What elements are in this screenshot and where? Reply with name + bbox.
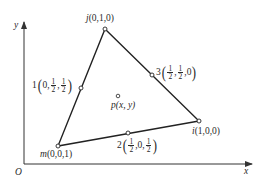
denominator: 2 [146, 146, 152, 154]
vertex-m-name: m [40, 149, 47, 159]
vertex-m-label: m(0,0,1) [40, 150, 72, 160]
midpoint-1-label: 1 ( 0, 12, 12 ) [32, 77, 73, 94]
midpoint-2-marker [126, 131, 130, 135]
vertex-i-marker [197, 119, 201, 123]
midpoint-1-y-fraction: 12 [51, 78, 57, 94]
comma: , [142, 141, 144, 151]
origin-label: O [15, 168, 22, 178]
y-axis-label: y [14, 21, 18, 31]
denominator: 2 [61, 86, 67, 94]
left-paren: ( [161, 64, 165, 81]
denominator: 2 [51, 86, 57, 94]
point-p-marker [116, 94, 120, 98]
vertex-i-label: i(1,0,0) [192, 127, 220, 137]
point-p-coords: (x, y) [116, 100, 136, 110]
midpoint-1-z-fraction: 12 [61, 78, 67, 94]
denominator: 2 [128, 146, 134, 154]
vertex-j-label: j(0,1,0) [86, 14, 114, 24]
midpoint-2-index: 2 [117, 141, 122, 151]
comma: , [174, 68, 176, 78]
vertex-i-coords: (1,0,0) [195, 126, 220, 136]
midpoint-1-index: 1 [32, 81, 37, 91]
midpoint-3-marker [150, 73, 154, 77]
left-paren: ( [122, 137, 126, 154]
midpoint-3-x-fraction: 12 [167, 65, 173, 81]
midpoint-1-marker [79, 86, 83, 90]
point-p-label: p(x, y) [111, 101, 135, 111]
midpoint-2-x-fraction: 12 [128, 138, 134, 154]
comma: , [57, 81, 59, 91]
vertex-m-marker [56, 144, 60, 148]
left-paren: ( [37, 77, 41, 94]
right-paren: ) [153, 137, 157, 154]
vertex-j-coords: (0,1,0) [89, 13, 114, 23]
x-axis-label: x [244, 167, 248, 177]
midpoint-3-index: 3 [156, 68, 161, 78]
vertex-m-coords: (0,0,1) [47, 149, 72, 159]
midpoint-2-z-fraction: 12 [146, 138, 152, 154]
right-paren: ) [68, 77, 72, 94]
midpoint-2-label: 2 ( 12, 0, 12 ) [117, 137, 158, 154]
right-paren: ) [192, 64, 196, 81]
midpoint-3-y-fraction: 12 [178, 65, 184, 81]
denominator: 2 [167, 73, 173, 81]
midpoint-3-z: 0 [187, 68, 192, 78]
midpoint-3-label: 3 ( 12, 12, 0 ) [156, 64, 197, 81]
denominator: 2 [178, 73, 184, 81]
vertex-j-marker [103, 27, 107, 31]
comma: , [47, 81, 49, 91]
